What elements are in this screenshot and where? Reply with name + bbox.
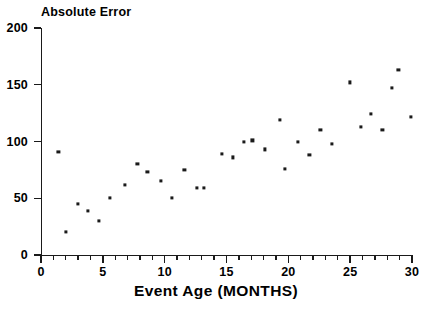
y-axis-tick [34, 198, 41, 199]
y-axis-title: Absolute Error [41, 6, 131, 19]
data-point [203, 186, 206, 189]
data-point [57, 150, 60, 153]
x-axis-minor-tick [362, 255, 363, 260]
x-axis-minor-tick [77, 255, 78, 260]
data-point [283, 167, 286, 170]
x-axis-major-tick [411, 255, 412, 263]
data-point [77, 202, 80, 205]
data-point [319, 129, 322, 132]
x-axis-minor-tick [325, 255, 326, 260]
x-axis-minor-tick [65, 255, 66, 260]
y-axis-tick-label: 150 [7, 79, 28, 92]
data-point [278, 118, 281, 121]
data-point [242, 140, 245, 143]
x-axis-major-tick [349, 255, 350, 263]
x-axis-major-tick [164, 255, 165, 263]
y-axis-tick [34, 84, 41, 85]
data-point [308, 154, 311, 157]
x-axis-minor-tick [387, 255, 388, 260]
y-axis-tick-label: 50 [14, 192, 28, 205]
plot-data-area [41, 28, 412, 255]
scatter-plot-figure: Absolute Error Event Age (MONTHS) 050100… [0, 0, 432, 309]
x-axis-minor-tick [139, 255, 140, 260]
x-axis-minor-tick [300, 255, 301, 260]
data-point [409, 115, 412, 118]
x-axis-tick-label: 20 [268, 266, 308, 279]
x-axis-minor-tick [275, 255, 276, 260]
x-axis-major-tick [102, 255, 103, 263]
data-point [397, 68, 400, 71]
data-point [251, 139, 254, 142]
x-axis-minor-tick [53, 255, 54, 260]
data-point [183, 168, 186, 171]
x-axis-major-tick [40, 255, 41, 263]
data-point [381, 129, 384, 132]
data-point [98, 219, 101, 222]
x-axis-minor-tick [374, 255, 375, 260]
y-axis-tick [34, 141, 41, 142]
x-axis-major-tick [288, 255, 289, 263]
x-axis-minor-tick [90, 255, 91, 260]
data-point [159, 180, 162, 183]
x-axis-tick-label: 5 [83, 266, 123, 279]
data-point [195, 186, 198, 189]
data-point [146, 171, 149, 174]
data-point [170, 197, 173, 200]
x-axis-minor-tick [127, 255, 128, 260]
x-axis-minor-tick [251, 255, 252, 260]
x-axis-major-tick [226, 255, 227, 263]
x-axis-tick-label: 25 [330, 266, 370, 279]
data-point [220, 152, 223, 155]
x-axis-tick-label: 10 [145, 266, 185, 279]
x-axis-minor-tick [213, 255, 214, 260]
x-axis-minor-tick [312, 255, 313, 260]
x-axis-title: Event Age (MONTHS) [0, 283, 432, 299]
x-axis-tick-label: 15 [207, 266, 247, 279]
x-axis-minor-tick [238, 255, 239, 260]
data-point [297, 140, 300, 143]
x-axis-minor-tick [201, 255, 202, 260]
y-axis-tick-label: 100 [7, 136, 28, 149]
data-point [64, 231, 67, 234]
x-axis-minor-tick [263, 255, 264, 260]
data-point [136, 163, 139, 166]
x-axis-tick-label: 30 [392, 266, 432, 279]
x-axis-tick-label: 0 [21, 266, 61, 279]
data-point [263, 148, 266, 151]
data-point [231, 156, 234, 159]
data-point [123, 183, 126, 186]
y-axis-tick [34, 27, 41, 28]
x-axis-minor-tick [337, 255, 338, 260]
data-point [109, 197, 112, 200]
data-point [370, 113, 373, 116]
x-axis-minor-tick [115, 255, 116, 260]
x-axis-minor-tick [189, 255, 190, 260]
y-axis-tick-label: 0 [21, 249, 28, 262]
x-axis-minor-tick [399, 255, 400, 260]
x-axis-minor-tick [176, 255, 177, 260]
x-axis-minor-tick [152, 255, 153, 260]
data-point [349, 81, 352, 84]
data-point [360, 125, 363, 128]
y-axis-tick-label: 200 [7, 22, 28, 35]
data-point [391, 87, 394, 90]
data-point [86, 209, 89, 212]
data-point [330, 142, 333, 145]
